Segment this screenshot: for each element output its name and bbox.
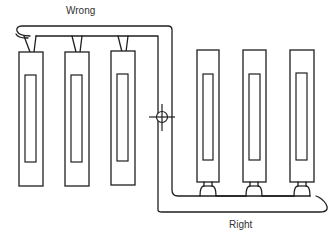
wrong-radiator-3 [111, 51, 135, 185]
radiator-piping-diagram [0, 0, 333, 237]
crosshair-valve-icon [149, 104, 175, 131]
right-connector-1 [200, 182, 216, 196]
right-connector-2 [246, 182, 262, 196]
right-radiator-3 [290, 50, 314, 182]
wrong-radiator-1 [19, 52, 43, 186]
wrong-branch-3 [118, 36, 128, 52]
wrong-label: Wrong [66, 5, 95, 16]
wrong-radiator-2 [65, 52, 89, 186]
right-label: Right [229, 219, 252, 230]
right-radiator-1 [197, 50, 219, 182]
wrong-branch-2 [72, 36, 82, 52]
right-radiator-2 [243, 50, 266, 182]
right-connector-3 [294, 182, 310, 196]
